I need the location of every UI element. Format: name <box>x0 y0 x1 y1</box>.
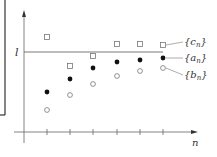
open-square-marker <box>91 54 96 59</box>
filled-circle-marker <box>161 56 166 61</box>
x-axis-label: n <box>192 137 198 148</box>
series-label: {an} <box>184 52 207 65</box>
data-points <box>45 35 166 113</box>
filled-circle-marker <box>115 60 120 65</box>
x-axis-arrow-icon <box>191 130 198 134</box>
sequence-squeeze-diagram: n l {cn}{an}{bn} <box>0 0 217 157</box>
open-circle-marker <box>68 93 73 98</box>
filled-circle-marker <box>91 66 96 71</box>
filled-circle-marker <box>45 90 50 95</box>
filled-circle-marker <box>138 58 143 63</box>
series-label: {cn} <box>184 36 207 49</box>
open-circle-marker <box>115 74 120 79</box>
open-circle-marker <box>138 69 143 74</box>
y-axis-arrow-icon <box>22 10 26 17</box>
label-leader-line <box>166 68 183 75</box>
series-label: {bn} <box>184 69 208 82</box>
open-square-marker <box>68 64 73 69</box>
open-circle-marker <box>91 82 96 87</box>
open-circle-marker <box>45 108 50 113</box>
open-circle-marker <box>161 66 166 71</box>
open-square-marker <box>115 42 120 47</box>
series-labels: {cn}{an}{bn} <box>166 36 208 82</box>
label-leader-line <box>166 42 183 45</box>
open-square-marker <box>161 43 166 48</box>
limit-label: l <box>15 46 19 59</box>
open-square-marker <box>45 35 50 40</box>
open-square-marker <box>138 42 143 47</box>
filled-circle-marker <box>68 77 73 82</box>
